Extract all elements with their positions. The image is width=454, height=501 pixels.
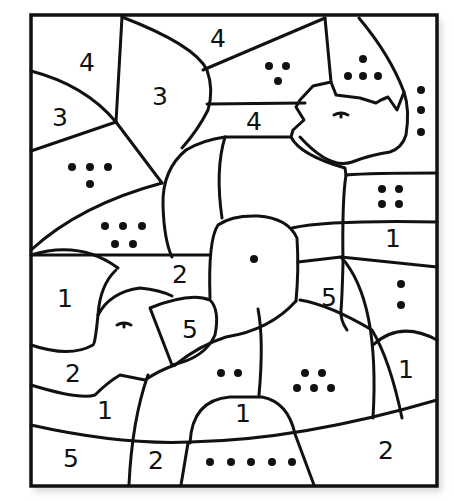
number-label: 3 <box>52 105 68 130</box>
number-label: 4 <box>210 26 226 51</box>
number-label: 2 <box>172 262 188 287</box>
number-label: 5 <box>321 285 337 310</box>
number-label: 1 <box>97 398 113 423</box>
number-label: 3 <box>152 84 168 109</box>
number-label: 5 <box>182 317 198 342</box>
number-label: 2 <box>65 361 81 386</box>
number-label: 4 <box>246 109 262 134</box>
coloring-page: 4 4 3 3 4 1 2 1 5 5 2 1 1 1 5 2 2 <box>0 0 454 501</box>
number-label: 2 <box>148 448 164 473</box>
number-label: 1 <box>57 286 73 311</box>
outline-path <box>207 103 305 104</box>
number-label: 1 <box>398 357 414 382</box>
number-label: 4 <box>79 50 95 75</box>
number-label: 1 <box>385 226 401 251</box>
number-label: 2 <box>378 438 394 463</box>
number-label: 5 <box>63 446 79 471</box>
number-label: 1 <box>235 401 251 426</box>
